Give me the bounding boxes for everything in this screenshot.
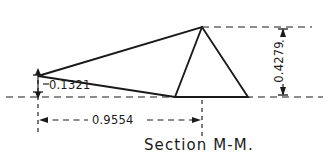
max-height-label: 0.4279 [272, 41, 286, 82]
drawing-canvas: 0.1321 0.9554 0.4279 Section M-M. [0, 0, 329, 159]
arrow-down-icon [35, 92, 41, 99]
arrow-right-icon [192, 117, 201, 123]
chord-station-label: 0.9554 [92, 113, 133, 127]
arrow-left-icon [39, 117, 48, 123]
internal-spar-line [175, 27, 202, 97]
leading-edge-height-label: 0.1321 [49, 78, 90, 92]
figure-caption: Section M-M. [144, 136, 254, 154]
section-drawing-figure: 0.1321 0.9554 0.4279 Section M-M. [0, 0, 329, 159]
arrow-up-icon [35, 68, 41, 75]
